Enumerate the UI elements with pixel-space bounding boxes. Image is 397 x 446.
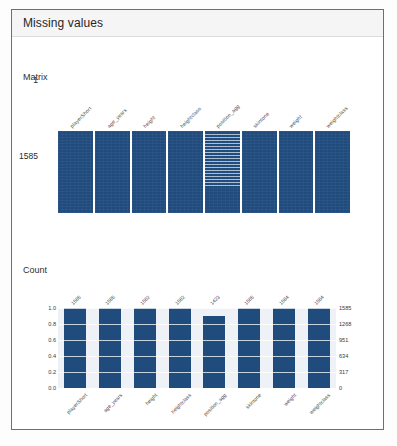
count-y-tick-right: 951 xyxy=(339,337,348,343)
matrix-column-label: weightclass xyxy=(325,105,349,129)
matrix-column-label: age_years xyxy=(106,107,128,129)
count-y-tick-right: 1268 xyxy=(339,321,351,327)
card-body: Matrix playerShortage_yearsheightheightc… xyxy=(12,37,383,429)
matrix-column xyxy=(58,131,93,213)
count-bar xyxy=(169,308,191,388)
count-bar-value-label: 1585 xyxy=(104,294,116,306)
count-bar xyxy=(308,308,330,388)
matrix-column-label: playerShort xyxy=(69,105,93,129)
count-bar-value-label: 1584 xyxy=(278,294,290,306)
count-y-tick-right: 1585 xyxy=(339,305,351,311)
count-y-tick-left: 0.0 xyxy=(16,385,56,391)
count-x-tick-label: skintone xyxy=(244,392,262,410)
count-x-axis-labels: playerShortage_yearsheightheightclasspos… xyxy=(58,392,336,428)
count-chart: 15851585158215821423158515841584 1.00.80… xyxy=(12,282,385,430)
matrix-chart: playerShortage_yearsheightheightclasspos… xyxy=(12,89,385,234)
count-bar xyxy=(203,316,225,388)
count-bar-value-labels: 15851585158215821423158515841584 xyxy=(58,282,336,306)
matrix-column xyxy=(279,131,314,213)
matrix-y-tick-top: 1 xyxy=(0,75,38,85)
screenshot-root: Missing values Matrix playerShortage_yea… xyxy=(0,0,397,446)
count-section-title: Count xyxy=(23,265,47,275)
count-plot-area xyxy=(58,308,336,388)
matrix-plot-area xyxy=(58,131,350,213)
count-x-tick-label: age_years xyxy=(102,392,123,413)
count-bar xyxy=(238,308,260,388)
count-y-tick-left: 1.0 xyxy=(16,305,56,311)
count-y-tick-left: 0.6 xyxy=(16,337,56,343)
count-bar xyxy=(134,308,156,388)
matrix-column-label: position_agg xyxy=(215,103,241,129)
card-header: Missing values xyxy=(12,10,383,37)
count-bar-value-label: 1585 xyxy=(243,294,255,306)
matrix-column xyxy=(315,131,350,213)
matrix-y-tick-bottom: 1585 xyxy=(0,151,38,161)
matrix-column xyxy=(168,131,203,213)
count-bar-value-label: 1582 xyxy=(139,294,151,306)
matrix-column xyxy=(205,131,240,213)
count-x-tick-label: heightclass xyxy=(170,392,193,415)
matrix-column-label: weight xyxy=(288,114,303,129)
matrix-column-labels: playerShortage_yearsheightheightclasspos… xyxy=(58,89,350,129)
count-x-tick-label: position_agg xyxy=(202,392,227,417)
matrix-column xyxy=(242,131,277,213)
missing-values-card: Missing values Matrix playerShortage_yea… xyxy=(11,9,384,430)
count-x-tick-label: height xyxy=(144,392,158,406)
count-y-tick-left: 0.8 xyxy=(16,321,56,327)
matrix-column-label: heightclass xyxy=(179,106,202,129)
count-bar-value-label: 1584 xyxy=(313,294,325,306)
matrix-column-label: height xyxy=(142,114,157,129)
count-y-tick-left: 0.2 xyxy=(16,369,56,375)
count-bar xyxy=(99,308,121,388)
count-bar-value-label: 1582 xyxy=(174,294,186,306)
count-x-tick-label: playerShort xyxy=(65,392,88,415)
card-title: Missing values xyxy=(23,16,103,30)
count-y-tick-right: 0 xyxy=(339,385,342,391)
matrix-column-label: skintone xyxy=(252,111,270,129)
matrix-column xyxy=(95,131,130,213)
count-y-tick-right: 634 xyxy=(339,353,348,359)
count-bar-value-label: 1423 xyxy=(208,294,220,306)
count-gridline xyxy=(58,388,336,389)
count-bar xyxy=(273,308,295,388)
count-y-tick-left: 0.4 xyxy=(16,353,56,359)
count-x-tick-label: weightclass xyxy=(308,392,331,415)
count-x-tick-label: weight xyxy=(282,392,297,407)
count-bar-value-label: 1585 xyxy=(69,294,81,306)
count-y-tick-right: 317 xyxy=(339,369,348,375)
matrix-column xyxy=(132,131,167,213)
count-bar xyxy=(64,308,86,388)
